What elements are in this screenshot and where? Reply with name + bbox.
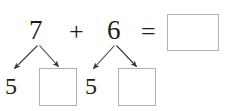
second-known-part-label: 5 <box>85 74 97 98</box>
arrow-seven-to-left-part <box>15 46 38 69</box>
second-unknown-part-box[interactable] <box>118 68 156 106</box>
equals-operator: = <box>141 19 156 45</box>
arrow-six-to-right-box <box>117 46 137 67</box>
arrow-six-to-left-part <box>94 46 115 69</box>
second-addend: 6 <box>107 17 121 44</box>
first-addend: 7 <box>29 17 43 44</box>
answer-input-box[interactable] <box>167 14 219 51</box>
first-unknown-part-box[interactable] <box>39 68 77 106</box>
plus-operator: + <box>69 19 84 45</box>
arrow-seven-to-right-box <box>40 46 59 67</box>
number-bond-worksheet: 7 + 6 = 5 5 <box>0 0 234 111</box>
first-known-part-label: 5 <box>5 74 17 98</box>
